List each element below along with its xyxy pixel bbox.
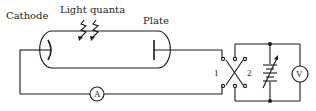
- cathode-label: Cathode: [6, 10, 48, 21]
- ammeter: A: [90, 87, 104, 101]
- reversing-switch: 1 2: [214, 44, 252, 101]
- voltmeter-symbol: V: [296, 69, 303, 79]
- plate-label: Plate: [143, 15, 169, 26]
- voltmeter: V: [292, 66, 308, 82]
- vacuum-tube: [20, 31, 222, 68]
- ammeter-symbol: A: [94, 89, 101, 99]
- switch-position-2: 2: [247, 68, 252, 78]
- switch-position-1: 1: [214, 68, 219, 78]
- light-quanta-label: Light quanta: [60, 4, 125, 15]
- photoelectric-circuit-diagram: Cathode Light quanta Plate A 1: [0, 0, 316, 111]
- variable-battery: [263, 44, 278, 101]
